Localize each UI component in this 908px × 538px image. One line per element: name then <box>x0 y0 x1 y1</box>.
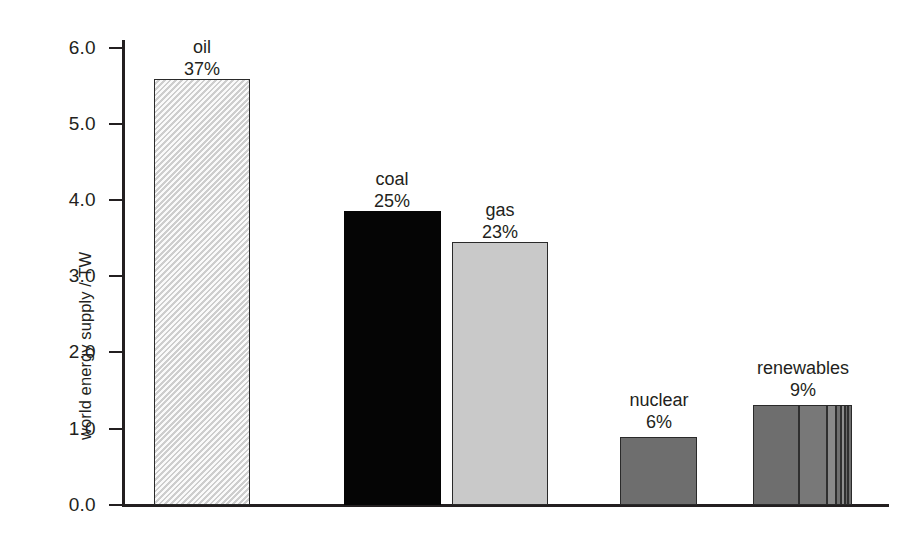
bar-label-gas-pct: 23% <box>482 222 518 244</box>
y-tick-label-2: 2.0 <box>69 341 96 363</box>
bar-coal[interactable] <box>344 211 441 505</box>
plot-area: oil 37% coal 25% gas 23% nuclear 6% rene… <box>122 40 889 505</box>
bar-label-gas-name: gas <box>485 200 514 220</box>
bar-renewables[interactable] <box>753 405 852 505</box>
bar-label-gas: gas 23% <box>482 200 518 244</box>
bar-label-nuclear-name: nuclear <box>629 390 688 410</box>
renewables-divider-5 <box>844 406 846 504</box>
renewables-segment-2 <box>798 406 826 504</box>
bar-label-coal-name: coal <box>375 169 408 189</box>
y-tick-label-4: 4.0 <box>69 189 96 211</box>
bar-label-oil-pct: 37% <box>184 59 220 81</box>
y-tick-label-1: 1.0 <box>69 418 96 440</box>
bar-label-nuclear-pct: 6% <box>629 412 688 434</box>
y-tick-label-5: 5.0 <box>69 113 96 135</box>
bar-label-coal-pct: 25% <box>374 191 410 213</box>
bar-nuclear[interactable] <box>620 437 697 505</box>
renewables-divider-3 <box>835 406 837 504</box>
bar-label-nuclear: nuclear 6% <box>629 390 688 434</box>
y-tick-label-6: 6.0 <box>69 37 96 59</box>
renewables-divider-6 <box>847 406 849 504</box>
bar-label-oil: oil 37% <box>184 37 220 81</box>
bar-label-renewables-name: renewables <box>757 358 849 378</box>
renewables-divider-1 <box>798 406 800 504</box>
bar-label-renewables: renewables 9% <box>757 358 849 402</box>
bar-oil[interactable] <box>154 79 250 505</box>
renewables-divider-2 <box>826 406 828 504</box>
bar-label-coal: coal 25% <box>374 169 410 213</box>
bar-gas[interactable] <box>452 242 548 505</box>
bar-label-oil-name: oil <box>193 37 211 57</box>
energy-supply-bar-chart: world energy supply / TW 6.0 5.0 4.0 3.0… <box>0 0 908 538</box>
renewables-divider-4 <box>840 406 842 504</box>
y-tick-label-3: 3.0 <box>69 265 96 287</box>
bar-label-renewables-pct: 9% <box>757 380 849 402</box>
y-tick-label-0: 0.0 <box>69 494 96 516</box>
